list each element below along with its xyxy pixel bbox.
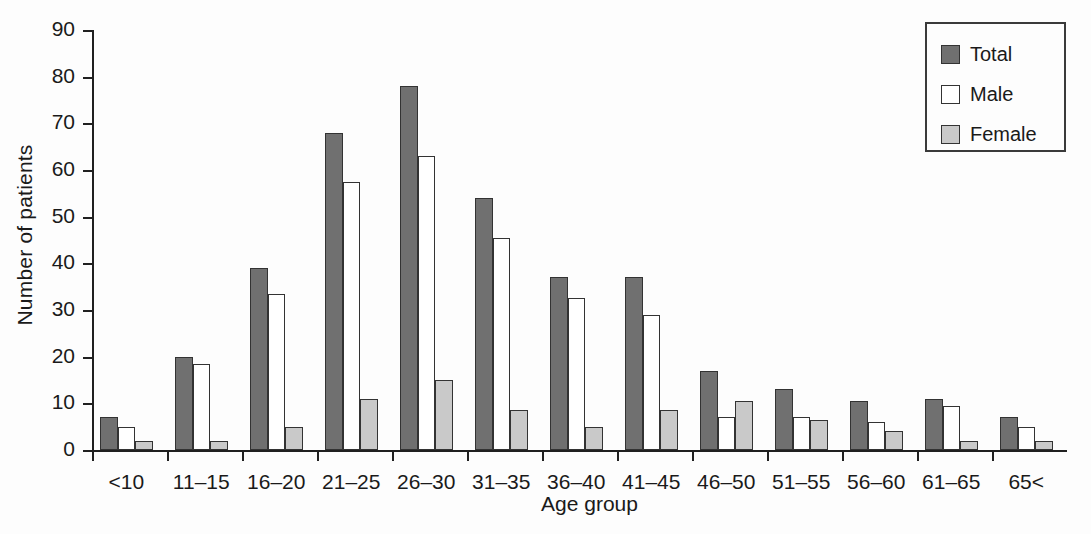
x-axis-tick-label: 31–35 <box>472 470 530 494</box>
y-axis-tick-label: 30 <box>52 297 75 321</box>
x-axis-tick-label: 36–40 <box>547 470 605 494</box>
bar-male <box>193 364 211 450</box>
y-axis-tick-label: 20 <box>52 344 75 368</box>
x-axis-tick <box>317 451 319 461</box>
legend-item-female[interactable]: Female <box>941 117 1064 151</box>
bar-female <box>435 380 453 450</box>
x-axis-tick-label: <10 <box>108 470 144 494</box>
bar-female <box>360 399 378 450</box>
bar-total <box>250 268 268 450</box>
legend-label-total: Total <box>970 43 1012 66</box>
bar-female <box>960 441 978 450</box>
bar-total <box>1000 417 1018 450</box>
x-axis-tick <box>92 451 94 461</box>
bar-female <box>885 431 903 450</box>
legend-label-female: Female <box>970 123 1037 146</box>
legend-item-total[interactable]: Total <box>941 37 1064 71</box>
bar-chart: Number of patients 9080706050403020100 <… <box>0 0 1091 534</box>
x-axis-tick <box>692 451 694 461</box>
y-axis-title: Number of patients <box>8 10 42 460</box>
y-axis-tick: 50 <box>83 217 92 219</box>
bar-male <box>643 315 661 450</box>
bar-female <box>810 420 828 450</box>
y-axis-tick: 40 <box>83 263 92 265</box>
bar-total <box>625 277 643 450</box>
x-axis-tick-label: 46–50 <box>697 470 755 494</box>
bar-total <box>550 277 568 450</box>
legend-item-male[interactable]: Male <box>941 77 1064 111</box>
x-axis-tick <box>242 451 244 461</box>
y-axis-tick: 80 <box>83 77 92 79</box>
y-axis-tick-label: 0 <box>63 437 75 461</box>
plot-area: 9080706050403020100 <1011–1516–2021–2526… <box>92 30 1067 450</box>
x-axis-line <box>92 450 1067 452</box>
x-axis-tick-label: 26–30 <box>397 470 455 494</box>
bar-female <box>585 427 603 450</box>
x-axis-tick <box>992 451 994 461</box>
x-axis-tick-label: 41–45 <box>622 470 680 494</box>
x-axis-tick-label: 16–20 <box>247 470 305 494</box>
x-axis-tick <box>767 451 769 461</box>
x-axis-tick <box>542 451 544 461</box>
y-axis-tick-label: 40 <box>52 250 75 274</box>
bar-total <box>475 198 493 450</box>
x-axis-tick-label: 11–15 <box>173 470 230 494</box>
bar-male <box>418 156 436 450</box>
x-axis-tick <box>917 451 919 461</box>
y-axis-tick-label: 60 <box>52 157 75 181</box>
bar-total <box>700 371 718 450</box>
x-axis-tick-label: 56–60 <box>847 470 905 494</box>
bar-total <box>850 401 868 450</box>
y-axis-tick-label: 90 <box>52 17 75 41</box>
y-axis-tick: 60 <box>83 170 92 172</box>
y-axis-tick-label: 80 <box>52 64 75 88</box>
y-axis-tick: 10 <box>83 403 92 405</box>
y-axis-line <box>92 30 94 451</box>
bar-female <box>735 401 753 450</box>
x-axis-tick <box>842 451 844 461</box>
y-axis-tick: 20 <box>83 357 92 359</box>
x-axis-title: Age group <box>0 492 1091 516</box>
bar-female <box>135 441 153 450</box>
y-axis-tick-label: 70 <box>52 110 75 134</box>
bar-female <box>285 427 303 450</box>
bar-female <box>660 410 678 450</box>
bar-male <box>943 406 961 450</box>
bar-male <box>868 422 886 450</box>
y-axis-tick-label: 50 <box>52 204 75 228</box>
legend-swatch-male <box>941 85 960 104</box>
bar-total <box>400 86 418 450</box>
bar-total <box>100 417 118 450</box>
x-axis-tick-label: 51–55 <box>772 470 830 494</box>
bar-male <box>718 417 736 450</box>
bar-male <box>1018 427 1036 450</box>
bar-male <box>493 238 511 450</box>
bar-female <box>510 410 528 450</box>
legend-swatch-total <box>941 45 960 64</box>
x-axis-tick-label: 21–25 <box>322 470 380 494</box>
legend-swatch-female <box>941 125 960 144</box>
bar-female <box>1035 441 1053 450</box>
bar-total <box>325 133 343 450</box>
y-axis-tick-label: 10 <box>52 390 75 414</box>
y-axis-tick: 0 <box>83 450 92 452</box>
x-axis-tick <box>392 451 394 461</box>
bar-total <box>175 357 193 450</box>
x-axis-tick <box>467 451 469 461</box>
x-axis-tick <box>167 451 169 461</box>
bar-total <box>775 389 793 450</box>
y-axis-tick: 70 <box>83 123 92 125</box>
bar-male <box>343 182 361 450</box>
y-axis-tick: 30 <box>83 310 92 312</box>
x-axis-tick-label: 65< <box>1008 470 1044 494</box>
bar-female <box>210 441 228 450</box>
bar-male <box>268 294 286 450</box>
legend: TotalMaleFemale <box>925 22 1066 152</box>
bar-male <box>118 427 136 450</box>
x-axis-tick <box>617 451 619 461</box>
x-axis-title-text: Age group <box>541 492 638 515</box>
y-axis-tick: 90 <box>83 30 92 32</box>
bar-male <box>568 298 586 450</box>
bar-total <box>925 399 943 450</box>
bar-male <box>793 417 811 450</box>
